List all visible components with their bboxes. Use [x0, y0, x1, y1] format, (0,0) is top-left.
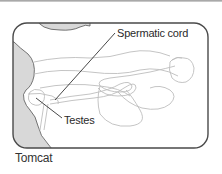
upper-body-shape [36, 18, 90, 30]
figure-caption: Tomcat [15, 151, 52, 165]
tomcat-anatomy-illustration [0, 0, 222, 174]
testes-label: Testes [64, 114, 95, 126]
left-thigh-shape [8, 40, 56, 152]
figure-frame [13, 23, 208, 148]
spermatic-cord-label: Spermatic cord [117, 27, 188, 39]
